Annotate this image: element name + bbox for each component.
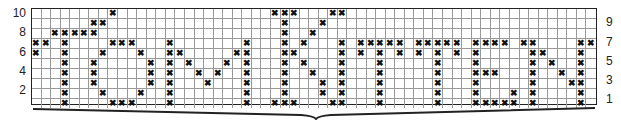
cross-mark-icon: ✖ xyxy=(587,39,595,48)
cross-mark-icon: ✖ xyxy=(109,9,117,18)
empty-cell xyxy=(586,49,596,59)
empty-cell xyxy=(357,59,367,69)
empty-cell xyxy=(261,79,271,89)
cross-mark-icon: ✖ xyxy=(80,29,88,38)
cross-mark-icon: ✖ xyxy=(472,89,480,98)
empty-cell xyxy=(166,9,176,19)
cross-mark-icon: ✖ xyxy=(243,79,251,88)
stitch-mark-cell: ✖ xyxy=(357,49,367,59)
stitch-mark-cell: ✖ xyxy=(424,39,434,49)
empty-cell xyxy=(367,9,377,19)
cross-mark-icon: ✖ xyxy=(415,39,423,48)
cross-mark-icon: ✖ xyxy=(472,49,480,58)
empty-cell xyxy=(357,69,367,79)
cross-mark-icon: ✖ xyxy=(434,39,442,48)
empty-cell xyxy=(462,59,472,69)
empty-cell xyxy=(376,19,386,29)
empty-cell xyxy=(309,49,319,59)
empty-cell xyxy=(261,69,271,79)
empty-cell xyxy=(539,19,549,29)
empty-cell xyxy=(214,89,224,99)
stitch-mark-cell: ✖ xyxy=(338,9,348,19)
cross-mark-icon: ✖ xyxy=(376,39,384,48)
empty-cell xyxy=(137,69,147,79)
empty-cell xyxy=(223,29,233,39)
empty-cell xyxy=(175,19,185,29)
stitch-mark-cell: ✖ xyxy=(300,39,310,49)
empty-cell xyxy=(195,49,205,59)
cross-mark-icon: ✖ xyxy=(61,29,69,38)
empty-cell xyxy=(204,59,214,69)
empty-cell xyxy=(51,59,61,69)
empty-cell xyxy=(175,9,185,19)
empty-cell xyxy=(118,79,128,89)
cross-mark-icon: ✖ xyxy=(577,39,585,48)
cross-mark-icon: ✖ xyxy=(453,39,461,48)
cross-mark-icon: ✖ xyxy=(137,49,145,58)
stitch-mark-cell: ✖ xyxy=(99,89,109,99)
empty-cell xyxy=(529,9,539,19)
empty-cell xyxy=(529,19,539,29)
empty-cell xyxy=(204,89,214,99)
cross-mark-icon: ✖ xyxy=(577,59,585,68)
empty-cell xyxy=(586,69,596,79)
stitch-mark-cell: ✖ xyxy=(195,69,205,79)
empty-cell xyxy=(290,79,300,89)
stitch-mark-cell: ✖ xyxy=(395,49,405,59)
empty-cell xyxy=(510,19,520,29)
empty-cell xyxy=(462,79,472,89)
stitch-mark-cell: ✖ xyxy=(300,59,310,69)
cross-mark-icon: ✖ xyxy=(415,49,423,58)
empty-cell xyxy=(233,19,243,29)
empty-cell xyxy=(309,89,319,99)
empty-cell xyxy=(510,39,520,49)
cross-mark-icon: ✖ xyxy=(539,49,547,58)
cross-mark-icon: ✖ xyxy=(147,69,155,78)
empty-cell xyxy=(539,79,549,89)
empty-cell xyxy=(443,59,453,69)
cross-mark-icon: ✖ xyxy=(396,39,404,48)
empty-cell xyxy=(271,19,281,29)
empty-cell xyxy=(328,79,338,89)
empty-cell xyxy=(558,49,568,59)
empty-cell xyxy=(214,49,224,59)
stitch-mark-cell: ✖ xyxy=(99,49,109,59)
stitch-mark-cell: ✖ xyxy=(548,59,558,69)
cross-mark-icon: ✖ xyxy=(367,39,375,48)
empty-cell xyxy=(290,19,300,29)
cross-mark-icon: ✖ xyxy=(434,79,442,88)
empty-cell xyxy=(300,9,310,19)
empty-cell xyxy=(156,39,166,49)
empty-cell xyxy=(70,49,80,59)
empty-cell xyxy=(271,69,281,79)
empty-cell xyxy=(70,39,80,49)
empty-cell xyxy=(386,49,396,59)
empty-cell xyxy=(500,9,510,19)
cross-mark-icon: ✖ xyxy=(166,59,174,68)
cross-mark-icon: ✖ xyxy=(577,89,585,98)
stitch-mark-cell: ✖ xyxy=(567,79,577,89)
empty-cell xyxy=(357,79,367,89)
stitch-mark-cell: ✖ xyxy=(147,79,157,89)
empty-cell xyxy=(147,89,157,99)
empty-cell xyxy=(42,69,52,79)
empty-cell xyxy=(242,9,252,19)
empty-cell xyxy=(70,79,80,89)
empty-cell xyxy=(548,9,558,19)
cross-mark-icon: ✖ xyxy=(214,69,222,78)
stitch-mark-cell: ✖ xyxy=(319,19,329,29)
cross-mark-icon: ✖ xyxy=(243,89,251,98)
cross-mark-icon: ✖ xyxy=(166,79,174,88)
cross-mark-icon: ✖ xyxy=(376,79,384,88)
empty-cell xyxy=(271,49,281,59)
empty-cell xyxy=(539,29,549,39)
empty-cell xyxy=(185,19,195,29)
cross-mark-icon: ✖ xyxy=(338,69,346,78)
empty-cell xyxy=(472,19,482,29)
empty-cell xyxy=(453,89,463,99)
empty-cell xyxy=(367,89,377,99)
empty-cell xyxy=(453,79,463,89)
empty-cell xyxy=(108,79,118,89)
empty-cell xyxy=(137,29,147,39)
empty-cell xyxy=(386,79,396,89)
